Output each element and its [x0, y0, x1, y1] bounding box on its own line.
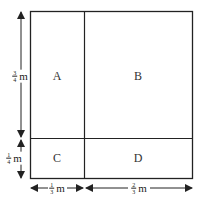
fraction: 2 3 — [131, 182, 136, 195]
fraction: 3 4 — [12, 70, 17, 83]
denominator: 3 — [50, 188, 53, 194]
unit: m — [138, 182, 147, 194]
fraction: 1 3 — [49, 182, 54, 195]
region-label-c: C — [53, 151, 61, 166]
unit: m — [56, 182, 65, 194]
denominator: 4 — [13, 76, 16, 82]
dimension-left-top: 3 4 m — [11, 70, 29, 83]
square-diagram — [0, 0, 199, 201]
dimension-left-bottom: 1 4 m — [5, 152, 23, 165]
region-label-d: D — [134, 151, 143, 166]
region-label-b: B — [134, 69, 142, 84]
unit: m — [19, 70, 28, 82]
unit: m — [13, 152, 22, 164]
dimension-bottom-left: 1 3 m — [48, 182, 66, 195]
denominator: 4 — [7, 158, 10, 164]
fraction: 1 4 — [6, 152, 11, 165]
region-label-a: A — [53, 69, 62, 84]
denominator: 3 — [132, 188, 135, 194]
dimension-bottom-right: 2 3 m — [130, 182, 148, 195]
